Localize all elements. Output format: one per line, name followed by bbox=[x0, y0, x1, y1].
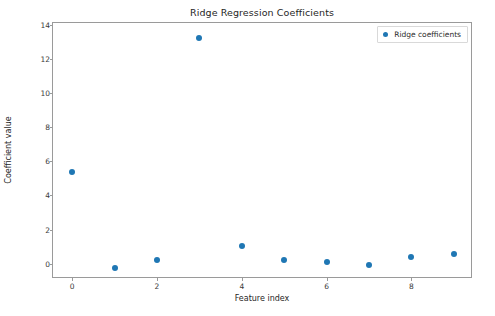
y-tick-label: 12 bbox=[40, 54, 50, 63]
x-tick-mark bbox=[242, 277, 243, 281]
x-tick-label: 0 bbox=[70, 282, 75, 291]
data-point bbox=[112, 265, 118, 271]
x-tick-label: 6 bbox=[324, 282, 329, 291]
y-tick-label: 4 bbox=[45, 191, 50, 200]
y-tick-label: 8 bbox=[45, 123, 50, 132]
data-point bbox=[154, 257, 160, 263]
y-axis-label: Coefficient value bbox=[4, 116, 13, 183]
data-point bbox=[366, 262, 372, 268]
data-point bbox=[281, 257, 287, 263]
x-tick-label: 8 bbox=[409, 282, 414, 291]
y-tick-label: 6 bbox=[45, 157, 50, 166]
y-tick-label: 14 bbox=[40, 20, 50, 29]
y-tick-label: 0 bbox=[45, 259, 50, 268]
data-point bbox=[408, 254, 414, 260]
legend-label: Ridge coefficients bbox=[394, 30, 461, 39]
chart-title: Ridge Regression Coefficients bbox=[52, 7, 472, 18]
chart-figure: Ridge Regression Coefficients 0246810121… bbox=[0, 0, 495, 316]
x-tick-mark bbox=[72, 277, 73, 281]
x-tick-mark bbox=[327, 277, 328, 281]
scatter-series-ridge-coefficients bbox=[53, 23, 471, 277]
x-tick-mark bbox=[157, 277, 158, 281]
legend-marker-icon bbox=[383, 32, 388, 37]
x-tick-mark bbox=[411, 277, 412, 281]
data-point bbox=[196, 35, 202, 41]
legend: Ridge coefficients bbox=[377, 26, 468, 43]
data-point bbox=[69, 169, 75, 175]
data-point bbox=[451, 251, 457, 257]
y-tick-label: 2 bbox=[45, 225, 50, 234]
y-tick-label: 10 bbox=[40, 88, 50, 97]
x-axis-label: Feature index bbox=[52, 294, 472, 303]
plot-area: 02468101214 02468 Ridge coefficients bbox=[52, 22, 472, 278]
data-point bbox=[324, 259, 330, 265]
x-tick-label: 2 bbox=[155, 282, 160, 291]
x-tick-label: 4 bbox=[239, 282, 244, 291]
data-point bbox=[239, 243, 245, 249]
